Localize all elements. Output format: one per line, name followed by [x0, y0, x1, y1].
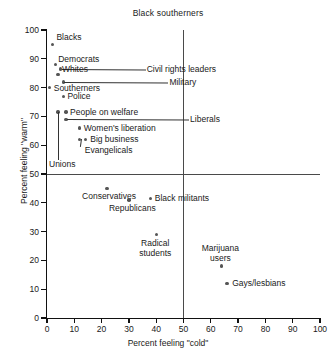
data-point-label: Whites: [62, 65, 88, 75]
y-tick-label-90: 90: [17, 54, 39, 64]
x-tick-label-70: 70: [226, 324, 250, 334]
data-point: [225, 282, 228, 285]
y-tick-30: [41, 231, 46, 232]
data-point-label: Big business: [90, 135, 138, 145]
x-tick-label-0: 0: [35, 324, 59, 334]
label-leader-line: [80, 139, 82, 147]
x-tick-90: [292, 318, 293, 323]
data-point: [54, 63, 57, 66]
data-point-label: Black militants: [155, 194, 209, 204]
data-point: [56, 73, 59, 76]
x-tick-label-50: 50: [172, 324, 196, 334]
x-tick-40: [156, 318, 157, 323]
data-point: [220, 264, 223, 267]
data-point-label: Police: [67, 92, 90, 102]
x-tick-10: [74, 318, 75, 323]
data-point-label: Women's liberation: [84, 124, 156, 134]
x-tick-70: [237, 318, 238, 323]
y-tick-90: [41, 58, 46, 59]
data-point-label: Unions: [49, 160, 75, 170]
y-tick-label-0: 0: [17, 313, 39, 323]
data-point-label: Civil rights leaders: [147, 65, 216, 75]
x-tick-label-40: 40: [144, 324, 168, 334]
data-point: [62, 95, 65, 98]
data-point-label: Liberals: [190, 115, 220, 125]
x-tick-label-20: 20: [90, 324, 114, 334]
data-point-label: Democrats: [58, 55, 99, 65]
x-tick-50: [183, 318, 184, 323]
x-tick-80: [265, 318, 266, 323]
x-tick-label-90: 90: [281, 324, 305, 334]
y-tick-60: [41, 145, 46, 146]
x-axis-label: Percent feeling "cold": [0, 338, 336, 348]
x-tick-label-10: 10: [62, 324, 86, 334]
data-point-label: Military: [169, 78, 196, 88]
x-tick-20: [101, 318, 102, 323]
y-tick-100: [41, 29, 46, 30]
data-point-label: Marijuana users: [202, 244, 239, 263]
x-tick-30: [128, 318, 129, 323]
data-point: [48, 86, 51, 89]
data-point-label: Blacks: [56, 33, 81, 43]
x-tick-label-100: 100: [308, 324, 332, 334]
data-point: [84, 138, 87, 141]
x-tick-label-60: 60: [199, 324, 223, 334]
reference-line-horizontal-50: [47, 174, 320, 175]
data-point: [78, 126, 81, 129]
y-tick-10: [41, 289, 46, 290]
y-tick-0: [41, 317, 46, 318]
data-point-label: People on welfare: [70, 108, 138, 118]
data-point: [155, 233, 158, 236]
chart-title: Black southerners: [0, 8, 336, 18]
x-tick-100: [319, 318, 320, 323]
x-tick-0: [46, 318, 47, 323]
x-tick-60: [210, 318, 211, 323]
y-tick-80: [41, 87, 46, 88]
data-point-label: Radical students: [139, 239, 171, 258]
label-leader-line: [58, 112, 59, 160]
data-point: [149, 197, 152, 200]
y-tick-label-100: 100: [17, 25, 39, 35]
y-tick-50: [41, 173, 46, 174]
y-axis-label: Percent feeling "warm": [19, 86, 29, 236]
y-tick-label-20: 20: [17, 255, 39, 265]
data-point-label: Evangelicals: [85, 146, 133, 156]
data-point-label: Gays/lesbians: [232, 279, 285, 289]
label-leader-line: [67, 119, 189, 120]
scatter-plot-figure: Black southerners 0102030405060708090100…: [0, 0, 336, 362]
y-tick-40: [41, 202, 46, 203]
data-point: [105, 187, 108, 190]
data-point: [64, 110, 67, 113]
y-tick-label-10: 10: [17, 284, 39, 294]
y-tick-20: [41, 260, 46, 261]
data-point: [127, 198, 130, 201]
y-tick-70: [41, 116, 46, 117]
data-point: [51, 43, 54, 46]
x-tick-label-80: 80: [253, 324, 277, 334]
data-point-label: Republicans: [109, 204, 156, 214]
x-tick-label-30: 30: [117, 324, 141, 334]
